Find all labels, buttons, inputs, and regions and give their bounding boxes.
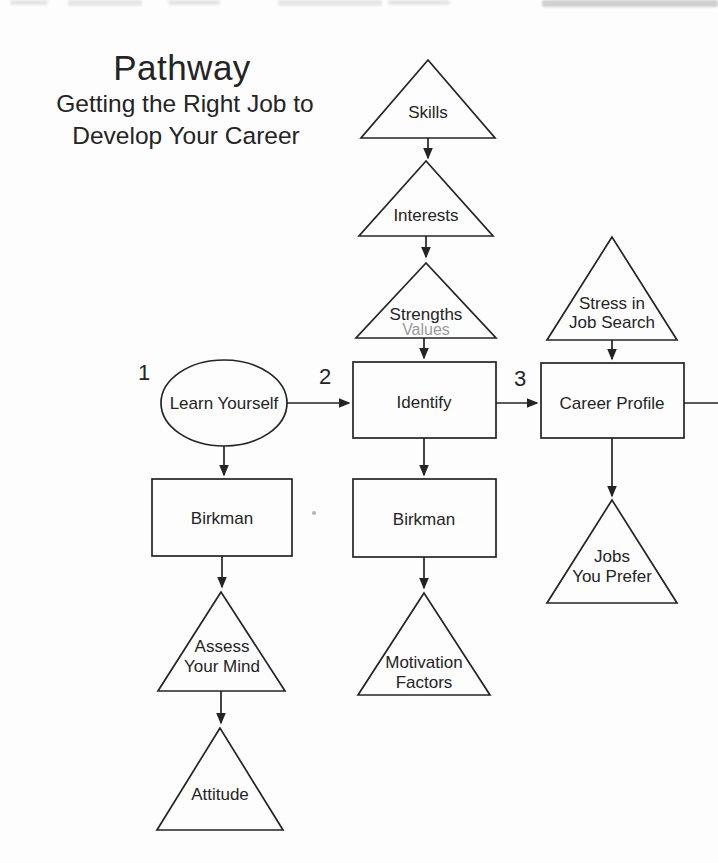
scan-artifact	[68, 0, 142, 6]
skills-triangle	[361, 60, 495, 138]
step-2-label: 2	[319, 364, 331, 389]
interests-label: Interests	[393, 206, 458, 225]
scan-artifact	[388, 0, 450, 5]
step-1-label: 1	[138, 360, 150, 385]
stress-label-line1: Stress in	[579, 294, 645, 313]
scan-artifact	[542, 0, 718, 7]
career-profile-label: Career Profile	[560, 394, 665, 413]
stress-label-line2: Job Search	[569, 313, 655, 332]
jobs-label-line2: You Prefer	[572, 567, 652, 586]
learn-yourself-label: Learn Yourself	[170, 394, 279, 413]
page-title: Pathway	[113, 48, 251, 87]
motivation-label-line1: Motivation	[385, 653, 462, 672]
assess-label-line1: Assess	[195, 637, 250, 656]
identify-label: Identify	[397, 393, 452, 412]
motivation-label-line2: Factors	[396, 673, 453, 692]
jobs-label-line1: Jobs	[594, 547, 630, 566]
skills-label: Skills	[408, 103, 448, 122]
scan-artifact	[168, 0, 220, 5]
scan-speck	[312, 511, 316, 515]
scan-artifact	[278, 0, 382, 6]
attitude-triangle	[157, 728, 283, 830]
page-subtitle-line2: Develop Your Career	[72, 122, 299, 149]
attitude-label: Attitude	[191, 785, 249, 804]
birkman-middle-label: Birkman	[393, 510, 455, 529]
values-label: Values	[402, 321, 450, 338]
step-3-label: 3	[514, 366, 526, 391]
pathway-diagram: Pathway Getting the Right Job to Develop…	[0, 0, 718, 863]
scanned-page: Pathway Getting the Right Job to Develop…	[0, 0, 718, 863]
assess-label-line2: Your Mind	[184, 657, 260, 676]
scan-artifact	[10, 0, 48, 5]
birkman-left-label: Birkman	[191, 509, 253, 528]
page-subtitle-line1: Getting the Right Job to	[56, 90, 313, 117]
